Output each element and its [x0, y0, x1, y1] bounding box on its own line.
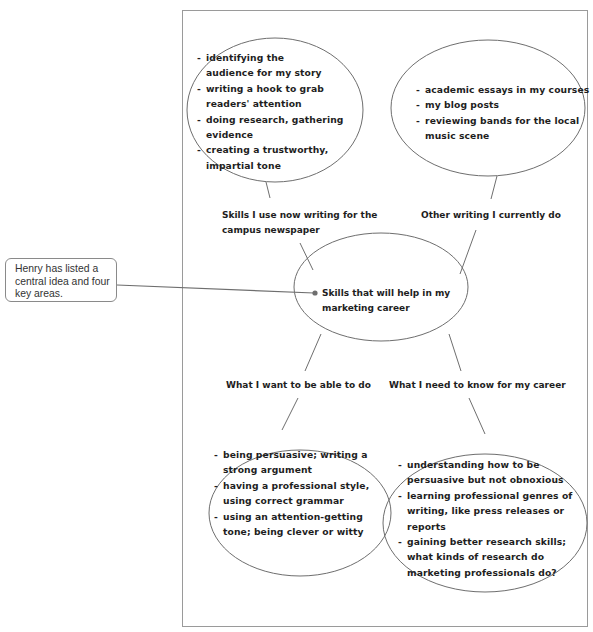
- connector-top-right-upper: [491, 176, 497, 199]
- top-right-list: -academic essays in my courses -my blog …: [416, 82, 589, 144]
- connector-bottom-left-upper: [305, 334, 321, 371]
- annotation-callout: Henry has listed a central idea and four…: [5, 258, 117, 302]
- callout-pointer-dot: [312, 290, 317, 295]
- callout-pointer-line: [117, 285, 314, 293]
- bottom-left-list: -being persuasive; writing astrong argum…: [214, 447, 369, 539]
- list-item: -learning professional genres ofwriting,…: [398, 488, 593, 534]
- list-item: -gaining better research skills;what kin…: [398, 534, 593, 580]
- list-item: -academic essays in my courses: [416, 82, 589, 97]
- connector-top-left-upper: [266, 182, 270, 198]
- list-item: -writing a hook to grabreaders' attentio…: [197, 81, 343, 112]
- list-item: -using an attention-gettingtone; being c…: [214, 509, 369, 540]
- list-item: -identifying theaudience for my story: [197, 50, 343, 81]
- list-item: -reviewing bands for the localmusic scen…: [416, 113, 589, 144]
- callout-line-1: Henry has listed a: [15, 263, 116, 276]
- callout-line-2: central idea and four: [15, 276, 116, 289]
- top-left-list: -identifying theaudience for my story -w…: [197, 50, 343, 173]
- connector-bottom-left-lower: [282, 398, 298, 430]
- central-idea-text: Skills that will help in my marketing ca…: [322, 286, 450, 317]
- branch-label-top-right: Other writing I currently do: [421, 208, 561, 223]
- bottom-right-bubble-text: -understanding how to bepersuasive but n…: [398, 457, 593, 580]
- bottom-left-bubble-text: -being persuasive; writing astrong argum…: [214, 447, 369, 539]
- branch-label-bottom-left: What I want to be able to do: [226, 378, 371, 393]
- connector-top-right-lower: [460, 230, 476, 274]
- list-item: -my blog posts: [416, 97, 589, 112]
- connector-bottom-right-upper: [449, 334, 461, 371]
- connector-bottom-right-lower: [469, 398, 485, 434]
- list-item: -being persuasive; writing astrong argum…: [214, 447, 369, 478]
- list-item: -creating a trustworthy,impartial tone: [197, 142, 343, 173]
- list-item: -understanding how to bepersuasive but n…: [398, 457, 593, 488]
- branch-label-top-left: Skills I use now writing for the campus …: [222, 208, 377, 239]
- callout-line-3: key areas.: [15, 288, 116, 301]
- list-item: -having a professional style,using corre…: [214, 478, 369, 509]
- branch-label-bottom-right: What I need to know for my career: [389, 378, 566, 393]
- top-right-bubble-text: -academic essays in my courses -my blog …: [416, 82, 589, 144]
- connector-top-left-lower: [300, 243, 313, 270]
- list-item: -doing research, gatheringevidence: [197, 112, 343, 143]
- bottom-right-list: -understanding how to bepersuasive but n…: [398, 457, 593, 580]
- top-left-bubble-text: -identifying theaudience for my story -w…: [197, 50, 343, 173]
